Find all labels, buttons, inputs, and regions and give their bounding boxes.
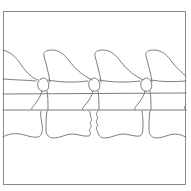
spine-diagram [0, 0, 191, 191]
frame-border [4, 12, 186, 185]
